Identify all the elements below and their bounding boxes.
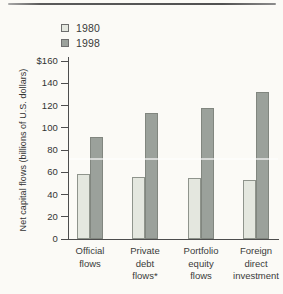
legend-label-1980: 1980 xyxy=(76,22,100,34)
y-tick-label-140: 140 xyxy=(20,77,58,88)
y-tick-160 xyxy=(61,61,68,62)
x-category-label-portfolio-equity-flows: Portfolio equity flows xyxy=(172,245,230,283)
legend-swatch-1998 xyxy=(61,39,69,47)
bar-1998-portfolio-equity-flows xyxy=(201,108,214,239)
bar-1998-private-debt-flows xyxy=(145,113,158,239)
bar-1980-official-flows xyxy=(77,174,90,239)
y-tick-60 xyxy=(61,172,68,173)
legend-label-1998: 1998 xyxy=(76,37,100,49)
y-axis-line xyxy=(68,57,69,240)
y-tick-label-40: 40 xyxy=(20,189,58,200)
legend-item-1998: 1998 xyxy=(61,35,100,50)
y-tick-label-60: 60 xyxy=(20,166,58,177)
y-tick-80 xyxy=(61,150,68,151)
bar-1980-foreign-direct-investment xyxy=(243,180,256,239)
y-tick-0 xyxy=(61,239,68,240)
top-rule xyxy=(8,3,276,5)
y-tick-label-80: 80 xyxy=(20,144,58,155)
scan-artifact-line xyxy=(69,158,278,160)
y-tick-label-20: 20 xyxy=(20,211,58,222)
y-tick-40 xyxy=(61,194,68,195)
bar-1980-private-debt-flows xyxy=(132,177,145,239)
bar-1998-official-flows xyxy=(90,137,103,239)
y-tick-label-160: $160 xyxy=(20,55,58,66)
bar-1998-foreign-direct-investment xyxy=(256,92,269,239)
x-category-label-private-debt-flows: Private debt flows* xyxy=(116,245,174,283)
x-category-label-foreign-direct-investment: Foreign direct investment xyxy=(227,245,283,283)
y-tick-label-120: 120 xyxy=(20,100,58,111)
legend: 1980 1998 xyxy=(61,20,100,50)
y-tick-20 xyxy=(61,216,68,217)
legend-swatch-1980 xyxy=(61,24,69,32)
y-tick-label-0: 0 xyxy=(20,233,58,244)
figure-net-capital-flows: 1980 1998 Net capital flows (billions of… xyxy=(0,0,283,294)
y-tick-120 xyxy=(61,105,68,106)
y-tick-100 xyxy=(61,127,68,128)
x-category-label-official-flows: Official flows xyxy=(61,245,119,270)
x-axis-line xyxy=(68,239,279,240)
legend-item-1980: 1980 xyxy=(61,20,100,35)
y-tick-label-100: 100 xyxy=(20,122,58,133)
y-tick-140 xyxy=(61,83,68,84)
bar-1980-portfolio-equity-flows xyxy=(188,178,201,239)
